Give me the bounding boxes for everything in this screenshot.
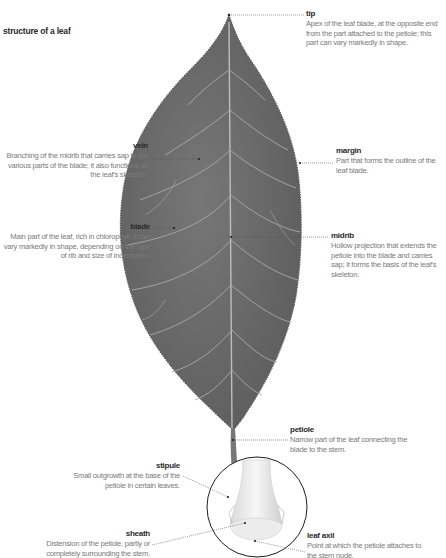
label-stipule: stipule Small outgrowth at the base of t… bbox=[60, 461, 180, 490]
label-petiole-term: petiole bbox=[290, 425, 410, 435]
label-vein-term: vein bbox=[2, 141, 148, 151]
label-tip-term: tip bbox=[306, 9, 441, 19]
label-margin: margin Part that forms the outline of th… bbox=[336, 146, 442, 175]
label-blade: blade Main part of the leaf, rich in chl… bbox=[0, 222, 150, 261]
label-midrib: midrib Hollow projection that extends th… bbox=[331, 231, 443, 279]
label-leaf-axil: leaf axil Point at which the petiole att… bbox=[307, 531, 432, 558]
label-blade-desc: Main part of the leaf, rich in chlorophy… bbox=[0, 232, 150, 261]
label-sheath-desc: Distension of the petiole, partly or com… bbox=[30, 539, 150, 558]
label-petiole-desc: Narrow part of the leaf connecting the b… bbox=[290, 435, 410, 454]
label-midrib-term: midrib bbox=[331, 231, 443, 241]
label-leaf-axil-term: leaf axil bbox=[307, 531, 432, 541]
label-blade-term: blade bbox=[0, 222, 150, 232]
label-midrib-desc: Hollow projection that extends the petio… bbox=[331, 241, 443, 279]
label-stipule-term: stipule bbox=[60, 461, 180, 471]
label-vein: vein Branching of the midrib that carrie… bbox=[2, 141, 148, 180]
label-petiole: petiole Narrow part of the leaf connecti… bbox=[290, 425, 410, 454]
label-leaf-axil-desc: Point at which the petiole attaches to t… bbox=[307, 541, 432, 558]
label-margin-term: margin bbox=[336, 146, 442, 156]
label-vein-desc: Branching of the midrib that carries sap… bbox=[2, 151, 148, 180]
label-tip-desc: Apex of the leaf blade, at the opposite … bbox=[306, 19, 441, 48]
label-tip: tip Apex of the leaf blade, at the oppos… bbox=[306, 9, 441, 48]
label-sheath: sheath Distension of the petiole, partly… bbox=[30, 529, 150, 558]
label-margin-desc: Part that forms the outline of the leaf … bbox=[336, 156, 442, 175]
label-sheath-term: sheath bbox=[30, 529, 150, 539]
label-stipule-desc: Small outgrowth at the base of the petio… bbox=[60, 471, 180, 490]
